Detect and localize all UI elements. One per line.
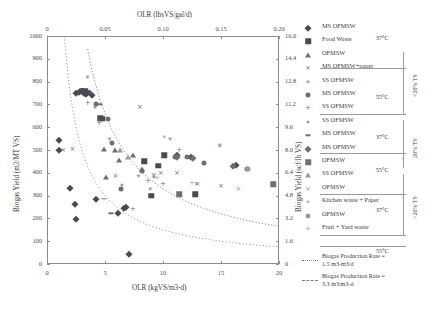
- tick-mark: [276, 241, 279, 242]
- tick-mark: [105, 261, 106, 264]
- legend-label: Kitchen waste + Paper: [322, 196, 379, 203]
- data-point: +: [160, 181, 166, 188]
- legend-item[interactable]: SS OFMSW: [300, 169, 437, 181]
- data-point: [101, 198, 106, 199]
- data-point: +: [145, 177, 151, 184]
- data-point: +: [96, 119, 102, 126]
- tick-label: 0: [20, 261, 42, 267]
- legend-label: OFMSW: [322, 49, 345, 56]
- tick-label: 11.2: [285, 101, 296, 107]
- data-point: [93, 105, 96, 108]
- legend-marker-x2: ×: [305, 185, 311, 192]
- tick-label: 15: [206, 270, 236, 276]
- legend-divider: [320, 235, 406, 236]
- legend-curve-swatch: [302, 280, 318, 281]
- data-point: ✳: [85, 74, 90, 80]
- data-point: [117, 148, 123, 153]
- data-point: ×: [195, 180, 201, 187]
- legend-marker-circle: [306, 93, 311, 98]
- data-point: [101, 146, 107, 151]
- biogas-yield-scatter-figure: OLR (lbsVS/gal/d) ×××××××××✳✳✳✳✳✳++++++×…: [0, 0, 437, 312]
- legend-divider: [320, 114, 406, 115]
- data-point: [119, 186, 124, 191]
- legend-temperature: 37°C: [376, 207, 389, 213]
- data-point: +: [85, 100, 91, 107]
- legend-curve-item[interactable]: Biogas Production Rate =1.5 m3-m3/d: [300, 254, 437, 272]
- data-point: [108, 213, 113, 214]
- legend-item[interactable]: ×OFMSW: [300, 183, 437, 195]
- tick-label: 400: [20, 169, 42, 175]
- legend-curve-swatch: [302, 260, 318, 261]
- data-point: [86, 90, 92, 96]
- tick-label: 8.0: [285, 147, 293, 153]
- tick-label: 3.2: [285, 215, 293, 221]
- legend-marker-square: [305, 39, 311, 45]
- tick-mark: [47, 36, 50, 37]
- tick-label: 5: [90, 270, 120, 276]
- legend-ts-group: 20% TS: [412, 139, 418, 158]
- legend-item[interactable]: OFMSW: [300, 49, 437, 61]
- tick-mark: [276, 264, 279, 265]
- bottom-axis-title: OLR (kgVS/m3-d): [132, 285, 187, 292]
- tick-mark: [276, 36, 279, 37]
- data-point: [103, 175, 109, 180]
- tick-label: 0.05: [90, 26, 120, 32]
- data-point: [201, 160, 206, 165]
- legend-item[interactable]: Food Waste: [300, 35, 437, 47]
- tick-label: 0: [32, 270, 62, 276]
- data-point: [149, 193, 155, 199]
- legend-curve-label: Biogas Production Rate =3.3 m3/m3-d: [322, 273, 385, 288]
- top-axis-title: OLR (lbsVS/gal/d): [137, 12, 192, 19]
- data-point: +: [130, 206, 136, 213]
- legend-temperature: 37°C: [376, 35, 389, 41]
- legend-label: MS OFMSW: [322, 22, 356, 29]
- trend-curve: [88, 49, 279, 226]
- tick-label: 6.4: [285, 169, 293, 175]
- legend-label: OFMSW: [322, 183, 345, 190]
- tick-mark: [47, 127, 50, 128]
- tick-mark: [105, 36, 106, 39]
- data-point: [125, 154, 131, 159]
- tick-mark: [47, 150, 50, 151]
- data-point: ×: [70, 145, 76, 152]
- tick-label: 9.6: [285, 124, 293, 130]
- tick-mark: [276, 104, 279, 105]
- tick-label: 100: [20, 238, 42, 244]
- data-point: ×: [60, 147, 66, 154]
- tick-mark: [47, 264, 50, 265]
- data-point: [142, 159, 148, 165]
- legend-item[interactable]: +SS OFMSW: [300, 102, 437, 114]
- legend-marker-plus: +: [305, 105, 311, 112]
- tick-mark: [221, 36, 222, 39]
- data-point: [106, 116, 111, 121]
- legend-label: SS OFMSW: [322, 116, 354, 123]
- legend-marker-diamond: [305, 25, 311, 31]
- tick-mark: [279, 261, 280, 264]
- legend-label: SS OFMSW: [322, 76, 354, 83]
- legend-ts-group: >20% TS: [412, 196, 418, 219]
- legend-temperature: 37°C: [376, 134, 389, 140]
- legend-label: Food Waste: [322, 35, 352, 42]
- legend-item[interactable]: MS OFMSW: [300, 22, 437, 34]
- tick-label: 200: [20, 215, 42, 221]
- tick-mark: [47, 241, 50, 242]
- tick-mark: [276, 59, 279, 60]
- legend: MS OFMSWFood WasteOFMSW×MS OFMSW+paper✳S…: [300, 22, 437, 307]
- legend-item[interactable]: SS OFMSW: [300, 116, 437, 128]
- data-point: [140, 168, 145, 173]
- tick-label: 10: [148, 270, 178, 276]
- tick-mark: [276, 218, 279, 219]
- legend-item[interactable]: +Fruit + Yard waste: [300, 223, 437, 235]
- legend-marker-plus2: +: [305, 226, 311, 233]
- plot-area: ×××××××××✳✳✳✳✳✳++++++××✳✳++: [47, 36, 279, 264]
- tick-label: 16.0: [285, 33, 296, 39]
- legend-label: SS OFMSW: [322, 169, 354, 176]
- legend-label: MS OFMSW: [322, 143, 356, 150]
- data-point: ✳: [136, 173, 141, 179]
- data-point: +: [176, 147, 182, 154]
- data-point: ×: [174, 170, 180, 177]
- legend-curve-item[interactable]: Biogas Production Rate =3.3 m3/m3-d: [300, 274, 437, 292]
- data-point: ×: [113, 173, 119, 180]
- legend-marker-x: ×: [305, 65, 311, 72]
- legend-marker-triangle: [305, 52, 311, 57]
